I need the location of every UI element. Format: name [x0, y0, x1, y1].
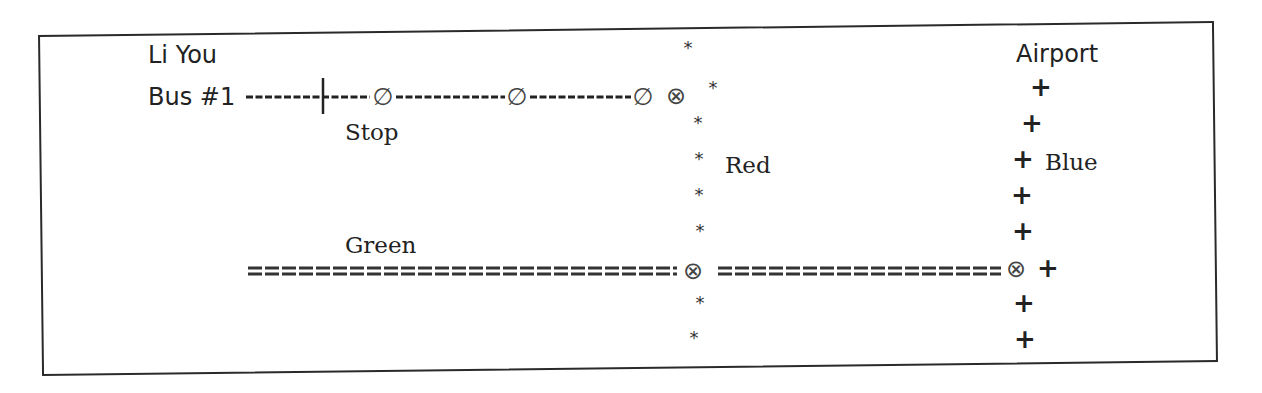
red-line-marker: * — [695, 186, 704, 204]
red-line-marker: * — [690, 329, 699, 347]
green-route-line — [248, 268, 1001, 274]
bus-stop-icon: ∅ — [373, 85, 394, 109]
red-line-marker: * — [696, 222, 705, 240]
bus-stop-icon: ∅ — [507, 85, 528, 109]
passenger-label: Li You — [148, 43, 217, 67]
red-line-marker: * — [684, 39, 693, 57]
blue-line-label: Blue — [1045, 151, 1098, 174]
green-line-label: Green — [345, 234, 416, 257]
transit-route-diagram: Li You Bus #1 Stop Red Green Blue Airpor… — [0, 0, 1262, 393]
blue-line-marker: + — [1014, 326, 1036, 352]
stop-label: Stop — [345, 121, 399, 144]
airport-label: Airport — [1016, 42, 1098, 66]
blue-line-marker: + — [1021, 110, 1043, 136]
blue-line-marker: + — [1037, 255, 1059, 281]
red-line-marker: * — [709, 79, 718, 97]
red-line-label: Red — [725, 154, 771, 177]
blue-line-marker: + — [1013, 290, 1035, 316]
bus-label: Bus #1 — [148, 85, 235, 109]
red-line-marker: * — [696, 294, 705, 312]
transfer-bus-red-icon: ⊗ — [666, 84, 686, 108]
bus-stop-icon: ∅ — [633, 85, 654, 109]
transfer-green-red-icon: ⊗ — [683, 259, 703, 283]
blue-line-marker: + — [1012, 146, 1034, 172]
blue-line-marker: + — [1030, 74, 1052, 100]
red-line-marker: * — [694, 114, 703, 132]
blue-line-marker: + — [1011, 182, 1033, 208]
blue-line-marker: + — [1012, 218, 1034, 244]
transfer-green-blue-icon: ⊗ — [1006, 257, 1026, 281]
red-line-marker: * — [695, 150, 704, 168]
